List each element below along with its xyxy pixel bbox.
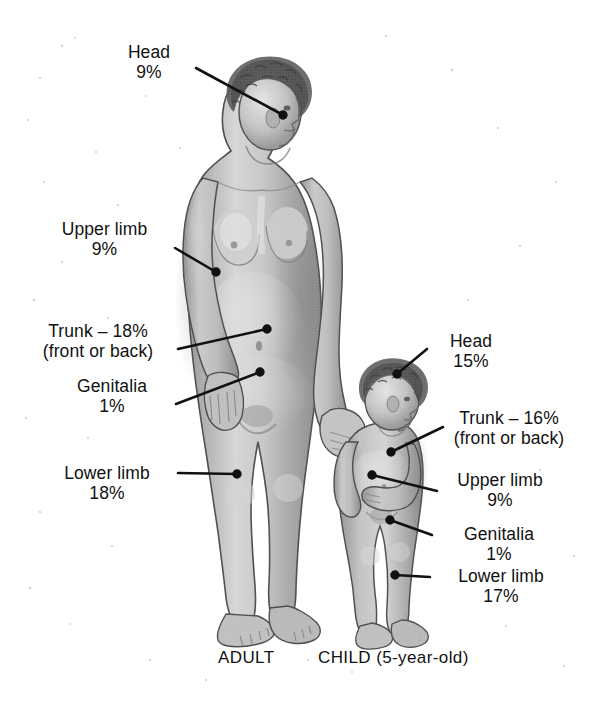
adult-label-trunk: Trunk – 18% (front or back) — [24, 321, 172, 362]
child-lower-limb-percent: 17% — [440, 586, 562, 606]
adult-label-genitalia: Genitalia 1% — [54, 376, 170, 417]
rule-of-nines-figure: Head 9% Upper limb 9% Trunk – 18% (front… — [0, 0, 596, 701]
child-head-region: Head — [432, 331, 510, 351]
adult-label-head: Head 9% — [108, 42, 190, 83]
child-label-head: Head 15% — [432, 331, 510, 372]
child-trunk-region: Trunk – 16% — [434, 408, 584, 428]
child-genitalia-percent: 1% — [444, 544, 554, 564]
child-label-lower-limb: Lower limb 17% — [440, 566, 562, 607]
adult-head-percent: 9% — [108, 62, 190, 82]
adult-lower-limb-percent: 18% — [46, 483, 168, 503]
child-label-genitalia: Genitalia 1% — [444, 524, 554, 565]
child-lower-limb-region: Lower limb — [440, 566, 562, 586]
adult-genitalia-region: Genitalia — [54, 376, 170, 396]
child-upper-limb-percent: 9% — [440, 490, 560, 510]
child-trunk-note: (front or back) — [434, 428, 584, 448]
adult-trunk-note: (front or back) — [24, 341, 172, 361]
child-head-percent: 15% — [432, 351, 510, 371]
child-label-trunk: Trunk – 16% (front or back) — [434, 408, 584, 449]
child-caption: CHILD (5-year-old) — [318, 648, 469, 668]
adult-label-upper-limb: Upper limb 9% — [42, 219, 167, 260]
adult-caption: ADULT — [218, 648, 274, 668]
child-upper-limb-region: Upper limb — [440, 470, 560, 490]
adult-head-region: Head — [108, 42, 190, 62]
child-genitalia-region: Genitalia — [444, 524, 554, 544]
adult-label-lower-limb: Lower limb 18% — [46, 463, 168, 504]
adult-upper-limb-region: Upper limb — [42, 219, 167, 239]
adult-trunk-region: Trunk – 18% — [24, 321, 172, 341]
child-label-upper-limb: Upper limb 9% — [440, 470, 560, 511]
adult-upper-limb-percent: 9% — [42, 239, 167, 259]
adult-lower-limb-region: Lower limb — [46, 463, 168, 483]
adult-genitalia-percent: 1% — [54, 396, 170, 416]
